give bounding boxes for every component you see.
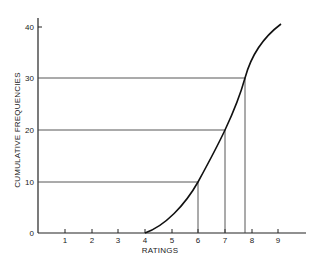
- x-tick-label: 3: [116, 236, 121, 245]
- reference-lines: [38, 78, 245, 233]
- y-tick-label: 0: [30, 229, 35, 238]
- x-tick-label: 1: [63, 236, 68, 245]
- x-tick-label: 5: [170, 236, 175, 245]
- y-tick-label: 20: [25, 126, 34, 135]
- x-tick-label: 4: [143, 236, 148, 245]
- y-tick-label: 30: [25, 74, 34, 83]
- x-tick-label: 6: [196, 236, 201, 245]
- y-tick-label: 40: [25, 23, 34, 32]
- x-tick-label: 7: [223, 236, 228, 245]
- x-tick-label: 2: [90, 236, 95, 245]
- cumulative-curve: [145, 24, 281, 233]
- x-tick-label: 9: [276, 236, 281, 245]
- x-tick-labels: 1 2 3 4 5 6 7 8 9: [63, 236, 281, 245]
- y-tick-label: 10: [25, 178, 34, 187]
- y-axis-label: CUMULATIVE FREQUENCIES: [13, 72, 22, 187]
- y-ticks: 40 30 20 10 0: [25, 23, 42, 238]
- x-tick-label: 8: [250, 236, 255, 245]
- chart: 40 30 20 10 0 1 2 3 4 5 6 7 8 9 RATINGS …: [0, 0, 321, 262]
- x-axis-label: RATINGS: [142, 246, 178, 255]
